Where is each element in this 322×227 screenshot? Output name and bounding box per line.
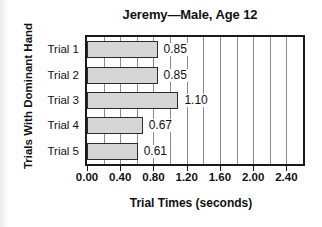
category-label-4: Trial 4 xyxy=(17,119,79,131)
x-tick-label: 1.20 xyxy=(175,171,197,183)
bar-row: 0.85 xyxy=(87,41,188,58)
bar-row: 0.85 xyxy=(87,67,188,84)
category-label-5: Trial 5 xyxy=(17,145,79,157)
x-axis-tick-labels: 0.000.400.801.201.602.002.40 xyxy=(85,171,305,187)
bar-row: 0.67 xyxy=(87,117,173,134)
category-label-1: Trial 1 xyxy=(17,43,79,55)
category-label-2: Trial 2 xyxy=(17,69,79,81)
bar-value-label: 1.10 xyxy=(183,94,208,107)
x-tick-label: 1.60 xyxy=(209,171,231,183)
bar-value-label: 0.67 xyxy=(148,119,173,132)
bar-value-label: 0.61 xyxy=(143,145,168,158)
plot-area: 0.850.851.100.670.61 xyxy=(85,35,305,166)
chart-title: Jeremy—Male, Age 12 xyxy=(70,7,310,22)
bar xyxy=(87,117,143,134)
x-axis-title: Trial Times (seconds) xyxy=(60,196,322,210)
category-axis-labels: Trial 1Trial 2Trial 3Trial 4Trial 5 xyxy=(17,35,83,166)
bar-row: 1.10 xyxy=(87,92,209,109)
bar xyxy=(87,143,138,160)
bar xyxy=(87,67,158,84)
x-tick-label: 2.40 xyxy=(275,171,297,183)
bar-value-label: 0.85 xyxy=(163,43,188,56)
x-tick-label: 2.00 xyxy=(242,171,264,183)
category-label-3: Trial 3 xyxy=(17,94,79,106)
bar-value-label: 0.85 xyxy=(163,69,188,82)
x-tick-label: 0.00 xyxy=(76,171,98,183)
bar xyxy=(87,92,178,109)
bar-row: 0.61 xyxy=(87,143,168,160)
bar xyxy=(87,41,158,58)
bar-chart-figure: Jeremy—Male, Age 12 Trials With Dominant… xyxy=(0,0,322,227)
x-tick-label: 0.80 xyxy=(142,171,164,183)
bars-layer: 0.850.851.100.670.61 xyxy=(87,37,303,164)
x-tick-label: 0.40 xyxy=(109,171,131,183)
